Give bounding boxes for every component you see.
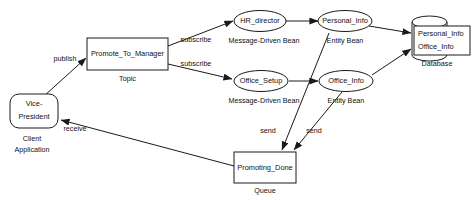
node-promote-to-manager[interactable]: Promote_To_Manager Topic: [87, 38, 168, 83]
node-personal-info-bean[interactable]: Personal_Info Entity Bean: [318, 11, 372, 45]
personal-info-bean-sublabel: Entity Bean: [327, 36, 364, 45]
promoting-done-sublabel: Queue: [254, 186, 276, 195]
vice-president-sublabel-line2: Application: [14, 145, 49, 154]
vice-president-label-line1: Vice-: [26, 99, 43, 108]
edge-office-info-to-database: [372, 49, 411, 75]
promoting-done-label: Promoting_Done: [237, 163, 292, 172]
office-info-bean-label: Office_Info: [328, 76, 364, 85]
ejb-flow-diagram: Vice- President Client Application Promo…: [0, 0, 476, 200]
database-sublabel: Database: [422, 59, 453, 68]
hr-director-sublabel: Message-Driven Bean: [228, 36, 299, 45]
edge-label-send-personal-info: send: [260, 126, 276, 135]
promote-to-manager-sublabel: Topic: [119, 74, 136, 83]
office-info-bean-sublabel: Entity Bean: [328, 96, 365, 105]
edge-label-subscribe-hr: subscribe: [181, 35, 212, 44]
edge-label-publish: publish: [54, 54, 77, 63]
database-label-line1: Personal_Info: [418, 29, 464, 38]
database-label-line2: Office_Info: [418, 42, 454, 51]
hr-director-label: HR_director: [240, 16, 280, 25]
vice-president-sublabel-line1: Client: [23, 134, 41, 143]
edge-label-send-office-info: send: [306, 126, 322, 135]
node-promoting-done[interactable]: Promoting_Done Queue: [234, 152, 296, 195]
node-hr-director[interactable]: HR_director Message-Driven Bean: [228, 11, 299, 45]
office-setup-sublabel: Message-Driven Bean: [228, 96, 299, 105]
edge-label-subscribe-office: subscribe: [181, 59, 212, 68]
edge-label-receive: receive: [63, 124, 86, 133]
node-database[interactable]: Personal_Info Office_Info Database: [412, 16, 470, 68]
diagram-canvas-container: Vice- President Client Application Promo…: [0, 0, 476, 200]
promote-to-manager-label: Promote_To_Manager: [91, 49, 165, 58]
edge-personal-info-to-database: [369, 26, 411, 33]
vice-president-label-line2: President: [18, 112, 49, 121]
edge-receive: [61, 120, 234, 166]
office-setup-label: Office_Setup: [240, 76, 283, 85]
node-vice-president[interactable]: Vice- President Client Application: [10, 94, 58, 154]
node-office-info-bean[interactable]: Office_Info Entity Bean: [319, 71, 373, 105]
personal-info-bean-label: Personal_Info: [322, 16, 368, 25]
edge-publish: [44, 58, 86, 96]
node-office-setup[interactable]: Office_Setup Message-Driven Bean: [228, 71, 299, 105]
